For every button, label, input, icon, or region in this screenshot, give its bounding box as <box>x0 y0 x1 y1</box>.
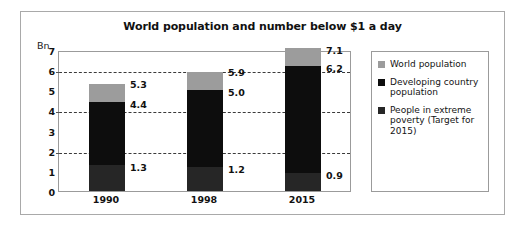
bar-segment-poverty-1998[interactable] <box>187 167 223 191</box>
legend-item-people-in-extreme-poverty[interactable]: People in extreme poverty (Target for 20… <box>378 105 483 137</box>
value-label-poverty-1990: 1.3 <box>130 161 147 172</box>
bar-segment-developing-1990[interactable] <box>89 102 125 164</box>
value-label-world-1998: 5.9 <box>228 67 245 78</box>
y-tick-0: 0 <box>41 187 55 198</box>
bar-segment-developing-2015[interactable] <box>285 66 321 173</box>
value-label-world-1990: 5.3 <box>130 79 147 90</box>
plot-area: 5.3 4.4 1.3 5.9 5.0 1.2 7.1 6.2 0.9 <box>58 51 351 192</box>
legend-label-people-in-extreme-poverty: People in extreme poverty (Target for 20… <box>390 105 483 137</box>
bar-segment-world-1990[interactable] <box>89 84 125 102</box>
legend-swatch-poverty-icon <box>378 107 385 114</box>
y-tick-7: 7 <box>41 46 55 57</box>
y-tickmark-6 <box>56 72 60 73</box>
y-tickmark-2 <box>56 153 60 154</box>
y-axis-tick-labels: 7 6 5 4 3 2 1 0 <box>37 51 55 192</box>
x-axis-tick-labels: 1990 1998 2015 <box>58 194 351 210</box>
value-label-developing-2015: 6.2 <box>326 63 343 74</box>
value-label-developing-1990: 4.4 <box>130 99 147 110</box>
chart-figure: World population and number below $1 a d… <box>20 11 505 215</box>
x-tick-1990: 1990 <box>76 194 136 205</box>
y-tick-1: 1 <box>41 166 55 177</box>
bar-segment-poverty-1990[interactable] <box>89 165 125 191</box>
y-tickmark-4 <box>56 112 60 113</box>
legend-swatch-developing-icon <box>378 79 385 86</box>
chart-legend: World population Developing country popu… <box>371 51 489 192</box>
x-tick-1998: 1998 <box>174 194 234 205</box>
value-label-poverty-1998: 1.2 <box>228 163 245 174</box>
y-tick-5: 5 <box>41 86 55 97</box>
legend-item-developing-country-population[interactable]: Developing country population <box>378 77 483 98</box>
y-tick-4: 4 <box>41 106 55 117</box>
bar-segment-world-1998[interactable] <box>187 72 223 90</box>
value-label-developing-1998: 5.0 <box>228 87 245 98</box>
x-tick-2015: 2015 <box>272 194 332 205</box>
value-label-world-2015: 7.1 <box>326 45 343 56</box>
legend-swatch-world-icon <box>378 61 385 68</box>
chart-title: World population and number below $1 a d… <box>21 20 504 33</box>
bar-segment-developing-1998[interactable] <box>187 90 223 167</box>
legend-label-world-population: World population <box>390 59 467 70</box>
y-tick-3: 3 <box>41 126 55 137</box>
legend-label-developing-country-population: Developing country population <box>390 77 483 98</box>
legend-item-world-population[interactable]: World population <box>378 59 483 70</box>
bar-segment-poverty-2015[interactable] <box>285 173 321 191</box>
y-tick-2: 2 <box>41 146 55 157</box>
bar-segment-world-2015[interactable] <box>285 48 321 66</box>
value-label-poverty-2015: 0.9 <box>326 169 343 180</box>
y-tick-6: 6 <box>41 66 55 77</box>
